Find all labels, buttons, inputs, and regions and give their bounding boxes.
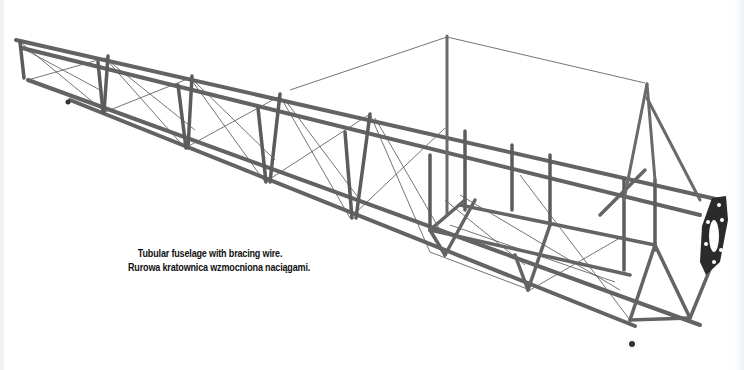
tail-skid xyxy=(629,341,635,347)
vertical-struts xyxy=(20,42,655,270)
caption-polish: Rurowa kratownica wzmocniona naciągami. xyxy=(128,260,310,274)
figure-caption: Tubular fuselage with bracing wire. Ruro… xyxy=(128,246,310,274)
firewall xyxy=(700,196,728,275)
longerons xyxy=(16,40,720,326)
fuselage-truss-illustration xyxy=(0,0,744,370)
caption-english: Tubular fuselage with bracing wire. xyxy=(128,246,310,260)
